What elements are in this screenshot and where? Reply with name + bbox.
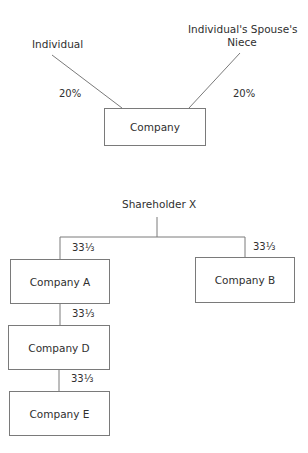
connector-lines xyxy=(0,0,308,453)
company-e-label: Company E xyxy=(30,408,90,420)
company-a-box: Company A xyxy=(10,259,110,304)
niece-label-line2: Niece xyxy=(188,36,296,49)
edge-individual-company xyxy=(52,55,122,108)
niece-ownership-pct: 20% xyxy=(233,88,255,99)
company-e-box: Company E xyxy=(9,391,110,436)
niece-label: Individual's Spouse's Niece xyxy=(188,23,296,49)
company-d-box: Company D xyxy=(8,325,110,370)
individual-label: Individual xyxy=(32,38,83,51)
ownership-diagrams: Individual Individual's Spouse's Niece 2… xyxy=(0,0,308,453)
a-to-d-pct: 33⅓ xyxy=(72,308,94,319)
niece-label-line1: Individual's Spouse's xyxy=(188,23,296,36)
individual-ownership-pct: 20% xyxy=(59,88,81,99)
company-b-label: Company B xyxy=(215,274,276,286)
company-a-label: Company A xyxy=(30,276,90,288)
company-label: Company xyxy=(130,121,180,133)
company-d-label: Company D xyxy=(28,342,89,354)
x-to-b-pct: 33⅓ xyxy=(253,241,275,252)
shareholder-x-label: Shareholder X xyxy=(122,198,196,211)
edge-niece-company xyxy=(189,53,240,108)
d-to-e-pct: 33⅓ xyxy=(71,373,93,384)
company-box: Company xyxy=(104,108,206,146)
x-to-a-pct: 33⅓ xyxy=(72,242,94,253)
company-b-box: Company B xyxy=(195,257,295,303)
